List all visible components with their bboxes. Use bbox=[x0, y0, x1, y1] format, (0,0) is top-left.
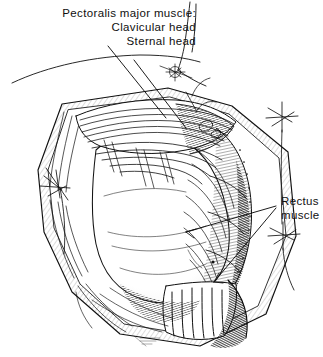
vessel-detail-upper bbox=[160, 64, 192, 81]
label-rectus-line-2: muscle bbox=[281, 208, 320, 222]
illustration-canvas bbox=[0, 0, 323, 357]
label-clavicular-head: Clavicular head bbox=[0, 20, 196, 34]
label-sternal-head: Sternal head bbox=[0, 34, 196, 48]
label-rectus-muscle: Rectus muscle bbox=[281, 194, 320, 222]
retractor-anchor-right-upper bbox=[266, 102, 298, 132]
label-pectoralis-major-muscle: Pectoralis major muscle: Clavicular head… bbox=[0, 6, 196, 49]
label-rectus-line-1: Rectus bbox=[281, 194, 320, 208]
surgical-illustration-figure: Pectoralis major muscle: Clavicular head… bbox=[0, 0, 323, 357]
label-pectoralis-line-1: Pectoralis major muscle: bbox=[0, 6, 196, 20]
